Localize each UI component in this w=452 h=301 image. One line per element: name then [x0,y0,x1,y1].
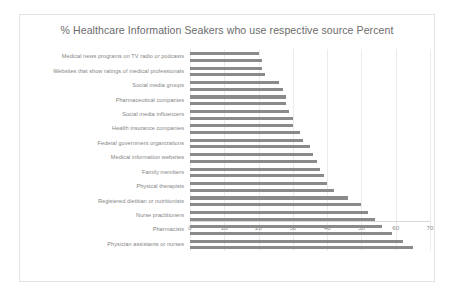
x-tick-label: 60 [392,224,399,231]
bar [190,67,262,70]
x-tick-label: 50 [358,224,365,231]
bar [190,59,262,62]
chart-plot-wrapper: Medical news programs on TV radio or pod… [20,45,436,281]
x-tick-label: 10 [221,224,228,231]
category-label: Family members [142,169,184,175]
category-label: Health insurance companies [112,125,184,131]
bar [190,246,413,249]
bar [190,131,300,134]
category-label: Nurse practitioners [136,212,184,218]
bar [190,110,289,113]
bar [190,189,334,192]
x-axis-line [190,221,430,222]
category-label: Pharmaceutical companies [116,97,184,103]
bar [190,240,403,243]
category-label: Medical news programs on TV radio or pod… [62,53,184,59]
bar [190,81,279,84]
bar [190,145,310,148]
bar [190,174,324,177]
x-axis-tick-labels: 010203040506070 [190,224,430,238]
bar [190,153,313,156]
category-label: Federal government organizations [98,140,185,146]
bar [190,102,286,105]
x-tick-label: 30 [289,224,296,231]
chart-title: % Healthcare Information Seakers who use… [20,24,434,36]
bar [190,117,293,120]
x-tick-label: 70 [427,224,434,231]
bar [190,211,368,214]
bar [190,168,320,171]
category-label: Medical information websites [111,154,184,160]
category-label: Pharmacists [153,226,184,232]
bar [190,139,303,142]
bar [190,52,259,55]
bar [190,203,361,206]
bar [190,88,283,91]
bar [190,182,327,185]
category-label: Registered dietitian or nutritionists [98,198,184,204]
category-label: Websites that show ratings of medical pr… [53,68,184,74]
bar [190,124,293,127]
chart-card: % Healthcare Information Seakers who use… [19,14,435,282]
category-label: Social media groups [132,82,184,88]
category-label: Physical therapists [136,183,184,189]
bar [190,160,317,163]
x-tick-label: 0 [188,224,191,231]
bar [190,196,348,199]
category-label: Social media influencers [122,111,184,117]
category-axis-labels: Medical news programs on TV radio or pod… [20,49,188,251]
x-tick-label: 40 [324,224,331,231]
bar [190,95,286,98]
gridline [430,49,431,251]
bar [190,73,265,76]
x-tick-label: 20 [255,224,262,231]
category-label: Physician assistants or nurses [107,241,184,247]
